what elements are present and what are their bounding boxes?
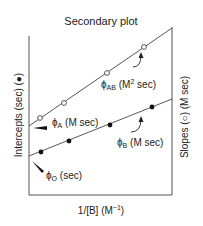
slope-point xyxy=(142,45,147,50)
secondary-plot-chart: Secondary plot ϕAB (M2 sec) ϕA (M sec) ϕ… xyxy=(0,0,203,226)
arrowhead-ab-icon xyxy=(139,52,144,58)
x-axis-label: 1/[B] (M−1) xyxy=(78,204,124,216)
chart-title: Secondary plot xyxy=(64,15,137,27)
slopes-fit-line xyxy=(29,28,172,126)
arrowhead-b-icon xyxy=(139,116,144,122)
intercept-point xyxy=(150,105,155,110)
right-y-axis-label: Slopes (○) (M sec) xyxy=(179,76,190,158)
phi-b-label: ϕB (M sec) xyxy=(117,137,163,149)
phi-o-label: ϕO (sec) xyxy=(46,170,82,182)
pointer-o-icon xyxy=(32,161,44,173)
left-y-axis-label: Intercepts (sec) (●) xyxy=(13,73,24,157)
phi-a-label: ϕA (M sec) xyxy=(52,117,98,129)
slope-point xyxy=(38,116,43,121)
pointer-a-icon xyxy=(33,126,47,130)
phi-ab-label: ϕAB (M2 sec) xyxy=(101,78,156,91)
intercept-point xyxy=(39,150,44,155)
intercept-point xyxy=(67,139,72,144)
slope-point xyxy=(62,101,67,106)
slope-point xyxy=(105,71,110,76)
intercept-point xyxy=(108,123,113,128)
